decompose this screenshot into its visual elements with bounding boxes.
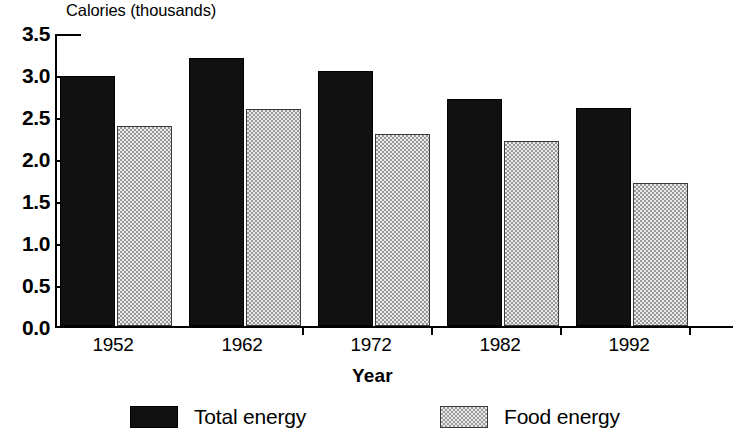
bar-total-energy-1952	[60, 76, 115, 326]
legend-label-total-energy: Total energy	[194, 405, 306, 428]
legend-swatch-total-energy	[130, 406, 178, 428]
x-axis-tick-labels: 1952 1962 1972 1982 1992	[55, 334, 733, 360]
x-tick-label-1982: 1982	[440, 334, 560, 356]
legend-item-food-energy: Food energy	[440, 405, 620, 428]
bar-food-energy-1972	[375, 134, 430, 326]
chart-legend: Total energy Food energy	[0, 405, 745, 437]
y-tick-label: 2.0	[2, 149, 50, 170]
bar-food-energy-1952	[117, 126, 172, 326]
y-axis-tick-labels: 3.5 3.0 2.5 2.0 1.5 1.0 0.5 0.0	[0, 34, 50, 328]
bar-total-energy-1972	[318, 71, 373, 326]
legend-label-food-energy: Food energy	[504, 405, 620, 428]
y-tick-label: 1.5	[2, 191, 50, 212]
y-tick-label: 0.5	[2, 275, 50, 296]
legend-swatch-food-energy	[440, 406, 488, 428]
bar-total-energy-1992	[576, 108, 631, 326]
bar-food-energy-1982	[504, 141, 559, 326]
y-tick-label: 0.0	[2, 317, 50, 338]
bar-food-energy-1992	[633, 183, 688, 327]
y-tick-label: 3.5	[2, 23, 50, 44]
x-tick-label-1952: 1952	[53, 334, 173, 356]
bar-food-energy-1962	[246, 109, 301, 326]
x-tick-label-1972: 1972	[311, 334, 431, 356]
plot-area	[55, 34, 733, 328]
x-tick-label-1992: 1992	[569, 334, 689, 356]
bar-total-energy-1982	[447, 99, 502, 326]
x-tick-label-1962: 1962	[182, 334, 302, 356]
x-axis-title: Year	[0, 365, 745, 387]
y-axis-tick	[57, 34, 81, 36]
y-tick-label: 1.0	[2, 233, 50, 254]
y-tick-label: 3.0	[2, 65, 50, 86]
chart-figure: Calories (thousands) 3.5 3.0 2.5 2.0 1.5…	[0, 0, 745, 444]
y-tick-label: 2.5	[2, 107, 50, 128]
x-axis-line	[55, 326, 733, 328]
legend-item-total-energy: Total energy	[130, 405, 306, 428]
y-axis-line	[55, 34, 57, 328]
y-axis-title: Calories (thousands)	[66, 1, 216, 20]
bar-total-energy-1962	[189, 58, 244, 326]
